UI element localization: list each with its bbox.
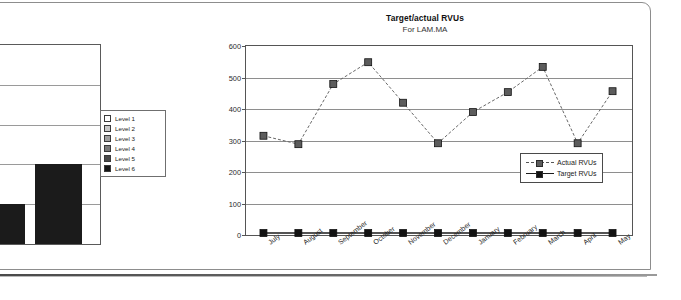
bar-chart-plot-area — [0, 44, 101, 245]
data-point-marker — [260, 132, 267, 139]
screenshot-page: Level 1Level 2Level 3Level 4Level 5Level… — [0, 0, 681, 300]
data-point-marker — [295, 230, 302, 237]
bar-legend-label: Level 1 — [115, 114, 135, 123]
legend-swatch-icon — [104, 155, 111, 162]
line-legend-label: Actual RVUs — [557, 157, 597, 168]
chart-title: Target/actual RVUs — [215, 13, 635, 23]
legend-swatch-icon — [104, 125, 111, 132]
bar — [0, 204, 25, 244]
data-point-marker — [400, 230, 407, 237]
data-point-marker — [435, 140, 442, 147]
data-point-marker — [539, 230, 546, 237]
target-actual-rvus-chart: Target/actual RVUs For LAM.MA 0100200300… — [215, 8, 635, 270]
legend-swatch-icon — [104, 115, 111, 122]
line-chart-legend: Actual RVUsTarget RVUs — [520, 153, 603, 183]
data-point-marker — [574, 140, 581, 147]
levels-bar-chart — [0, 44, 101, 245]
y-axis-label: 300 — [218, 136, 246, 145]
data-point-marker — [330, 81, 337, 88]
data-point-marker — [330, 230, 337, 237]
bar-legend-item: Level 1 — [104, 114, 161, 123]
y-axis-label: 200 — [218, 168, 246, 177]
y-axis-label: 500 — [218, 73, 246, 82]
legend-key-icon — [526, 168, 554, 179]
bar-legend-label: Level 3 — [115, 134, 135, 143]
data-point-marker — [295, 141, 302, 148]
line-legend-item: Target RVUs — [526, 168, 597, 179]
series-line — [263, 62, 612, 144]
bar-chart-legend: Level 1Level 2Level 3Level 4Level 5Level… — [100, 110, 166, 177]
data-point-marker — [539, 63, 546, 70]
bar-legend-label: Level 2 — [115, 124, 135, 133]
y-axis-label: 100 — [218, 199, 246, 208]
line-chart-series — [246, 46, 632, 235]
data-point-marker — [469, 109, 476, 116]
data-point-marker — [609, 88, 616, 95]
data-point-marker — [469, 230, 476, 237]
data-point-marker — [609, 230, 616, 237]
y-axis-label: 400 — [218, 105, 246, 114]
bar-legend-label: Level 6 — [115, 164, 135, 173]
data-point-marker — [365, 59, 372, 66]
data-point-marker — [574, 230, 581, 237]
legend-swatch-icon — [104, 165, 111, 172]
data-point-marker — [504, 230, 511, 237]
bar-legend-item: Level 6 — [104, 164, 161, 173]
data-point-marker — [400, 99, 407, 106]
bar-legend-item: Level 3 — [104, 134, 161, 143]
chart-subtitle: For LAM.MA — [215, 25, 635, 34]
line-legend-item: Actual RVUs — [526, 157, 597, 168]
legend-swatch-icon — [104, 135, 111, 142]
bar-legend-item: Level 4 — [104, 144, 161, 153]
line-legend-label: Target RVUs — [557, 168, 597, 179]
bar-legend-item: Level 2 — [104, 124, 161, 133]
legend-key-icon — [526, 157, 554, 168]
bottom-divider — [0, 276, 647, 277]
data-point-marker — [260, 230, 267, 237]
legend-swatch-icon — [104, 145, 111, 152]
line-chart-plot-area: 0100200300400500600 JulyAugustSeptemberO… — [245, 45, 633, 236]
bar-legend-label: Level 5 — [115, 154, 135, 163]
bar-legend-item: Level 5 — [104, 154, 161, 163]
legend-marker-icon — [536, 160, 543, 167]
bar — [35, 164, 82, 244]
data-point-marker — [435, 230, 442, 237]
bar-legend-label: Level 4 — [115, 144, 135, 153]
legend-marker-icon — [536, 171, 543, 178]
y-axis-label: 0 — [218, 231, 246, 240]
bar-column — [0, 45, 25, 244]
y-axis-label: 600 — [218, 42, 246, 51]
data-point-marker — [365, 230, 372, 237]
bar-column — [35, 45, 82, 244]
data-point-marker — [504, 89, 511, 96]
